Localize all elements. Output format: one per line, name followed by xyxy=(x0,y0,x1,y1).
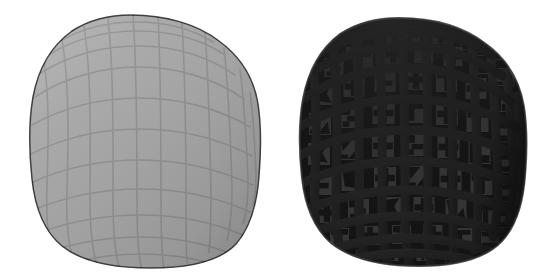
lattice-cube-outline xyxy=(300,18,527,266)
panel-lattice-rounded-cube: Lattice (open cage) rounded cube xyxy=(271,0,541,279)
lattice-rounded-cube-render xyxy=(271,0,541,279)
panel-solid-rounded-cube: Solid rounded cube with quad wireframe xyxy=(0,0,271,279)
solid-rounded-cube-render xyxy=(0,0,271,279)
figure-root: Rounded cube: solid subdivision surface … xyxy=(0,0,541,279)
solid-cube-outline xyxy=(30,15,261,268)
